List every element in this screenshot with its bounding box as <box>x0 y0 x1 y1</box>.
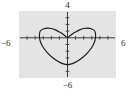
window-xmax-label: 6 <box>121 39 126 48</box>
window-ymin-label: −6 <box>0 81 135 90</box>
graph-figure: 4 −6 −6 6 <box>0 0 135 96</box>
window-xmin-label: −6 <box>1 39 11 48</box>
plot-area <box>19 11 116 78</box>
calculator-viewport <box>19 11 116 78</box>
window-ymax-label: 4 <box>0 1 135 10</box>
